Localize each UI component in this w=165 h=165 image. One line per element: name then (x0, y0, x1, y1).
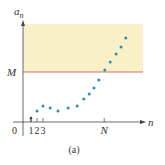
data-point (97, 79, 100, 82)
data-point (93, 87, 96, 90)
data-point (103, 69, 106, 72)
x-tick-label: 1 (29, 125, 34, 136)
chart: 123N an n M 0 (a) (0, 0, 165, 165)
data-point (124, 37, 127, 40)
x-axis-label: n (148, 116, 154, 128)
figure-caption: (a) (68, 144, 79, 156)
origin-label: 0 (12, 125, 17, 136)
data-point (49, 107, 52, 110)
data-point (82, 98, 85, 101)
x-axis-arrow-icon (140, 120, 146, 124)
data-point (29, 116, 32, 119)
x-tick-label: N (100, 124, 109, 136)
x-tick-label: 3 (41, 125, 46, 136)
threshold-label: M (6, 66, 17, 78)
data-point (76, 105, 79, 108)
data-point (36, 110, 39, 113)
x-tick-label: 2 (35, 125, 40, 136)
data-point (42, 105, 45, 108)
data-point (120, 46, 123, 49)
data-point (88, 93, 91, 96)
data-point (67, 107, 70, 110)
y-axis-arrow-icon (21, 20, 25, 26)
data-point (109, 61, 112, 64)
data-point (57, 110, 60, 113)
shaded-region (23, 24, 143, 72)
y-axis-label: an (14, 5, 24, 20)
data-point (115, 53, 118, 56)
